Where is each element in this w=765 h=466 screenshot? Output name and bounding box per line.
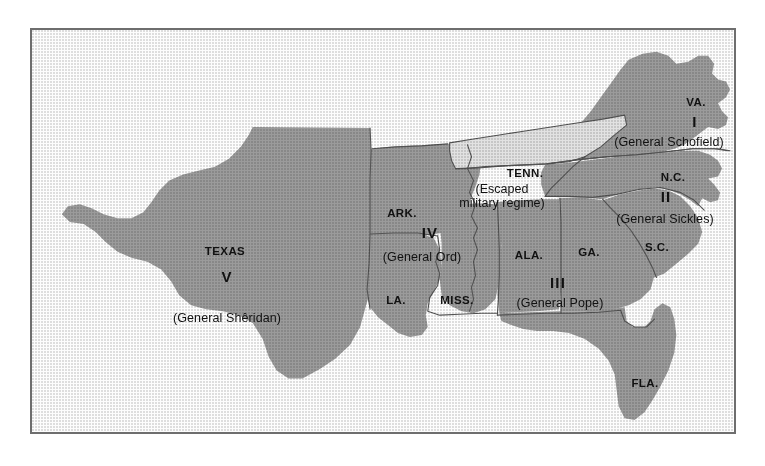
district-numeral-1: I (692, 114, 697, 131)
map-geometry: .land { fill: #9b9b9b; stroke: none; } .… (32, 30, 734, 432)
state-label-arkansas: ARK. (387, 207, 417, 220)
state-shape-florida (499, 303, 676, 420)
district-commander-1: (General Schofield) (614, 135, 724, 149)
state-label-mississippi: MISS. (440, 294, 473, 307)
map-frame-border: .land { fill: #9b9b9b; stroke: none; } .… (30, 28, 736, 434)
state-label-south-carolina: S.C. (645, 241, 669, 254)
tennessee-note-line-1: (Escaped (459, 182, 544, 196)
reconstruction-districts-map: .land { fill: #9b9b9b; stroke: none; } .… (0, 0, 765, 466)
state-label-north-carolina: N.C. (661, 171, 686, 184)
state-label-florida: FLA. (631, 377, 658, 390)
state-label-louisiana: LA. (386, 294, 406, 307)
tennessee-escaped-note: (Escaped military regime) (459, 182, 544, 211)
state-label-virginia: VA. (686, 96, 706, 109)
district-numeral-3: III (550, 275, 566, 292)
district-commander-3: (General Pope) (517, 296, 604, 310)
state-shape-louisiana (366, 232, 442, 337)
state-label-alabama: ALA. (515, 249, 543, 262)
district-numeral-2: II (661, 189, 672, 206)
district-numeral-4: IV (422, 225, 439, 242)
district-commander-2: (General Sickles) (616, 212, 714, 226)
state-label-georgia: GA. (578, 246, 600, 259)
district-numeral-5: V (221, 269, 232, 286)
state-label-texas: TEXAS (205, 245, 245, 258)
district-commander-4: (General Ord) (383, 250, 461, 264)
state-label-tennessee: TENN. (507, 167, 544, 180)
district-commander-5: (General Shêridan) (173, 311, 281, 325)
land-mass-group (62, 52, 734, 420)
tennessee-note-line-2: military regime) (459, 196, 544, 210)
